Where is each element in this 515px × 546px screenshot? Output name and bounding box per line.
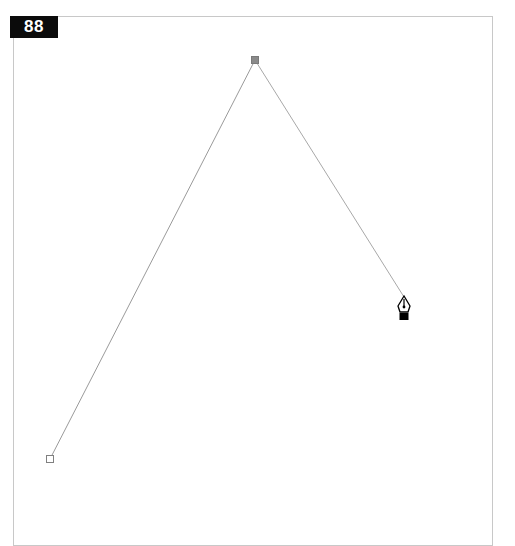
anchor-point-start[interactable] [47,456,54,463]
path-segment [50,60,255,459]
pen-cursor-icon [398,296,410,320]
anchor-point-selected[interactable] [252,57,259,64]
rubber-band-segment [255,60,404,297]
